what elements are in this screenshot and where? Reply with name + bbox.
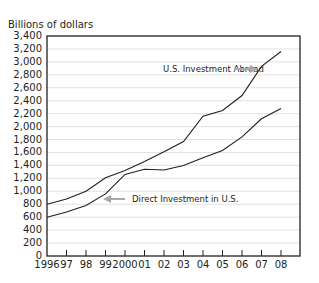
line-chart: U.S. Investment AbroadDirect Investment … [0,0,319,283]
arrow-left-icon [103,195,111,203]
annotation-direct-investment-in-us: Direct Investment in U.S. [132,194,238,204]
